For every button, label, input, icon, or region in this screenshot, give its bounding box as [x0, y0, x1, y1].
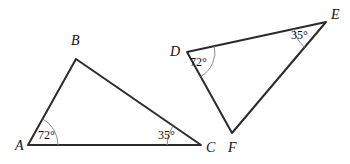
geometry-figure: A B C 72° 35° D E F 72° 35°: [0, 0, 350, 164]
angle-value-d: 72°: [190, 55, 207, 69]
angle-value-c: 35°: [158, 128, 175, 142]
vertex-label-d: D: [169, 44, 180, 59]
vertex-label-f: F: [227, 140, 237, 155]
angle-value-a: 72°: [38, 128, 55, 142]
vertex-label-e: E: [330, 7, 340, 22]
vertex-label-b: B: [71, 33, 80, 48]
figure-svg: A B C 72° 35° D E F 72° 35°: [0, 0, 350, 164]
vertex-label-c: C: [206, 140, 216, 155]
angle-value-e: 35°: [291, 28, 308, 42]
triangle-def-group: D E F 72° 35°: [169, 7, 340, 155]
triangle-abc-group: A B C 72° 35°: [14, 33, 216, 155]
vertex-label-a: A: [14, 138, 24, 153]
